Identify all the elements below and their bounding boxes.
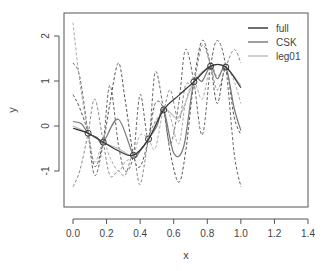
x-tick-label: 1.2 (267, 228, 281, 239)
x-tick-label: 1.0 (234, 228, 248, 239)
legend: fullCSKleg01 (248, 23, 301, 62)
y-tick-label: 1 (40, 78, 51, 84)
legend-label-leg01: leg01 (276, 51, 301, 62)
dashed-curve (73, 40, 241, 182)
y-tick-label: -1 (40, 166, 51, 175)
y-axis: -1012 (40, 33, 59, 176)
y-tick-label: 0 (40, 123, 51, 129)
y-axis-label: y (6, 107, 18, 113)
x-tick-label: 0.2 (100, 228, 114, 239)
legend-label-full: full (276, 23, 289, 34)
legend-label-CSK: CSK (276, 37, 297, 48)
dashed-curve (73, 45, 241, 187)
x-tick-label: 0.8 (200, 228, 214, 239)
x-tick-label: 0.0 (66, 228, 80, 239)
dashed-curves-layer (73, 23, 241, 187)
line-chart: 0.00.20.40.60.81.01.21.4 -1012 x y fullC… (0, 0, 329, 271)
y-tick-label: 2 (40, 33, 51, 39)
chart-container: 0.00.20.40.60.81.01.21.4 -1012 x y fullC… (0, 0, 329, 271)
x-tick-label: 0.6 (167, 228, 181, 239)
x-axis: 0.00.20.40.60.81.01.21.4 (66, 219, 315, 239)
x-tick-label: 0.4 (133, 228, 147, 239)
x-axis-label: x (183, 249, 189, 261)
x-tick-label: 1.4 (301, 228, 315, 239)
dashed-curve (73, 23, 241, 172)
plot-frame (64, 13, 308, 207)
